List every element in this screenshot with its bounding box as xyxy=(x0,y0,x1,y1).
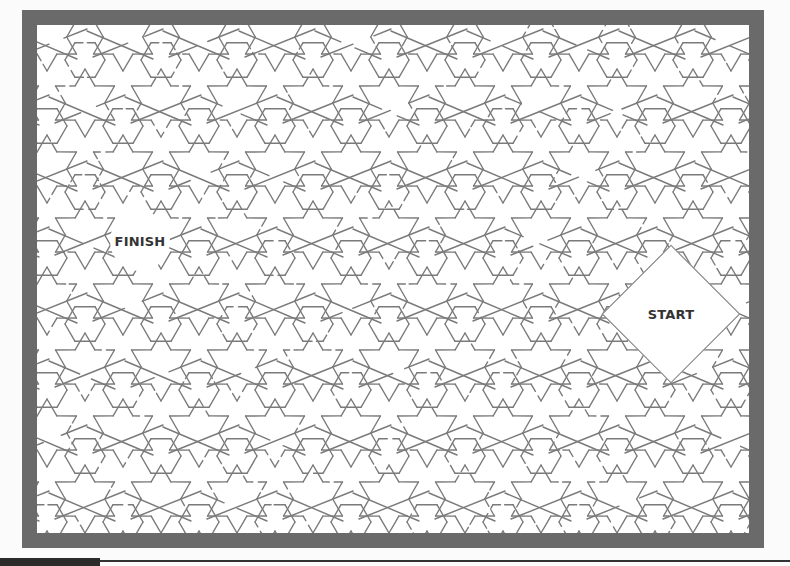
start-label: START xyxy=(646,307,697,322)
finish-label: FINISH xyxy=(113,234,168,249)
bottom-rule xyxy=(100,560,790,562)
bottom-bar xyxy=(0,558,100,566)
